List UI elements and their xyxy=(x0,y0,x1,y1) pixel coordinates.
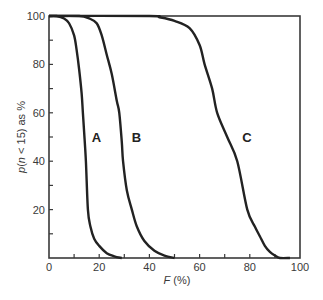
x-tick-label: 20 xyxy=(93,261,105,273)
curve-label-b: B xyxy=(132,130,141,145)
curve-label-c: C xyxy=(242,130,252,145)
x-tick-label: 100 xyxy=(291,261,309,273)
x-axis-label: F (%) xyxy=(164,274,191,286)
x-tick-label: 0 xyxy=(46,261,52,273)
x-tick-label: 60 xyxy=(193,261,205,273)
y-tick-label: 80 xyxy=(33,58,45,70)
data-curves xyxy=(49,16,290,258)
x-axis-ticks: 020406080100 xyxy=(46,254,309,273)
curve-b xyxy=(49,16,175,258)
y-tick-label: 20 xyxy=(33,204,45,216)
curve-a xyxy=(49,16,122,258)
y-tick-label: 40 xyxy=(33,155,45,167)
x-tick-label: 40 xyxy=(143,261,155,273)
y-tick-label: 60 xyxy=(33,107,45,119)
y-axis-label: p(n < 15) as % xyxy=(15,101,27,174)
chart: 020406080100 20406080100 ABC F (%) p(n <… xyxy=(0,0,323,300)
y-tick-label: 100 xyxy=(27,10,45,22)
plot-frame xyxy=(49,16,300,258)
x-tick-label: 80 xyxy=(244,261,256,273)
curve-label-a: A xyxy=(92,130,102,145)
